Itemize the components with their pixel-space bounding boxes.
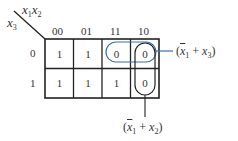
paren-close: ): [158, 120, 162, 134]
kmap-cell-r0-c01: 1: [74, 39, 103, 68]
term-op: +: [189, 44, 202, 58]
term-x1bar-plus-x2: (x1 + x2): [123, 120, 162, 136]
col-header-00: 00: [52, 26, 63, 37]
kmap-cell-r0-c00: 1: [45, 39, 74, 68]
paren-close: ): [211, 44, 215, 58]
sub-3: 3: [13, 23, 17, 32]
kmap-cell-r1-c00: 1: [45, 69, 74, 98]
row-header-1: 1: [30, 78, 36, 89]
sub-2: 2: [38, 10, 42, 19]
col-variables-label: x1x2: [22, 3, 42, 19]
col-header-01: 01: [81, 26, 92, 37]
row-header-0: 0: [30, 48, 36, 59]
col-header-11: 11: [110, 26, 121, 37]
kmap-cell-r1-c01: 1: [74, 69, 103, 98]
kmap-cell-r1-c11: 1: [102, 69, 131, 98]
kmap-cell-r0-c10: 0: [131, 39, 160, 68]
row-variable-label: x3: [7, 16, 17, 32]
term-x1bar-plus-x3: (x1 + x3): [176, 44, 215, 60]
term-op: +: [136, 120, 149, 134]
kmap-cell-r0-c11: 0: [102, 39, 131, 68]
col-header-10: 10: [138, 26, 149, 37]
kmap-cell-r1-c10: 0: [131, 69, 160, 98]
